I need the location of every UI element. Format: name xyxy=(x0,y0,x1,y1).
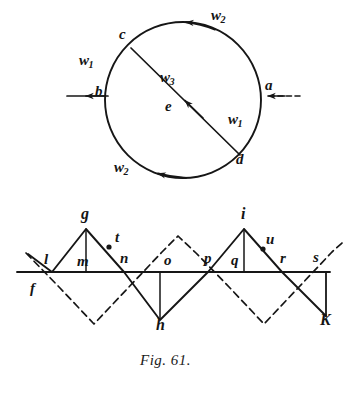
chord-direction-arrow xyxy=(185,101,203,119)
label-point-c: c xyxy=(119,27,126,42)
label-vector-w1-left: w1 xyxy=(79,53,94,70)
zigzag-diagram-group xyxy=(17,229,342,324)
figure-caption: Fig. 61. xyxy=(140,352,191,369)
label-vector-w2-bottom: w2 xyxy=(114,160,129,177)
vector-subscript: 1 xyxy=(237,118,242,129)
label-point-i: i xyxy=(241,206,245,222)
label-point-K: K xyxy=(320,312,331,328)
circle-diagram-group xyxy=(67,22,300,178)
label-point-p: p xyxy=(204,251,212,266)
label-point-g: g xyxy=(81,206,89,222)
label-point-f: f xyxy=(30,281,35,296)
label-point-l: l xyxy=(44,252,48,267)
label-vector-w1-right: w1 xyxy=(228,112,243,129)
vector-subscript: 3 xyxy=(169,76,174,87)
label-point-a: a xyxy=(265,78,273,93)
dashed-zigzag-path xyxy=(26,236,342,324)
marker-dot-t xyxy=(106,244,111,249)
label-vector-w2-top: w2 xyxy=(211,8,226,25)
label-point-s: s xyxy=(313,250,319,265)
label-point-b: b xyxy=(95,84,103,99)
label-vector-w3-center: w3 xyxy=(160,70,175,87)
label-point-o: o xyxy=(164,253,172,268)
label-point-e: e xyxy=(165,99,172,114)
marker-dot-u xyxy=(260,246,265,251)
figure-61-drawing xyxy=(0,0,354,395)
label-point-t: t xyxy=(115,230,119,245)
label-point-m: m xyxy=(77,254,89,269)
vector-subscript: 2 xyxy=(220,14,225,25)
label-point-h: h xyxy=(156,317,165,333)
label-point-u: u xyxy=(266,232,274,247)
vector-subscript: 1 xyxy=(88,59,93,70)
label-point-q: q xyxy=(231,253,239,268)
label-point-r: r xyxy=(280,251,286,266)
vector-subscript: 2 xyxy=(123,166,128,177)
label-point-n: n xyxy=(120,251,128,266)
label-point-d: d xyxy=(236,152,244,167)
